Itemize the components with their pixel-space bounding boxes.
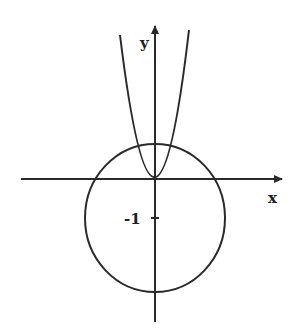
diagram: y x -1 bbox=[0, 0, 301, 330]
y-axis-label: y bbox=[139, 34, 150, 52]
y-tick-label: -1 bbox=[124, 210, 141, 228]
x-axis-label: x bbox=[268, 189, 278, 207]
